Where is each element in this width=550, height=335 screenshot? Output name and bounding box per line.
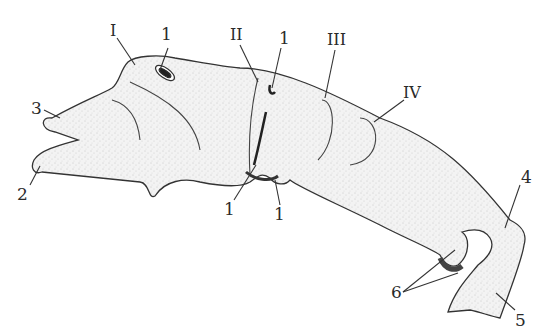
label-1a: 1 (161, 24, 172, 44)
label-III: III (327, 30, 346, 49)
leader-IV (374, 100, 404, 122)
label-2: 2 (17, 184, 28, 204)
label-IV: IV (403, 83, 421, 102)
leader-I (117, 38, 135, 65)
anatomical-diagram: I II III IV 1 1 1 1 2 3 4 5 6 (0, 0, 550, 335)
label-1d: 1 (274, 204, 285, 224)
leader-III (325, 50, 335, 98)
leader-3 (44, 110, 60, 118)
embryo-body-outline (32, 56, 525, 318)
label-6: 6 (391, 282, 402, 302)
label-5: 5 (515, 310, 526, 330)
label-I: I (110, 21, 116, 40)
label-1c: 1 (224, 199, 235, 219)
label-3: 3 (31, 98, 42, 118)
label-1b: 1 (279, 28, 290, 48)
leader-6a (403, 250, 455, 292)
label-II: II (230, 25, 243, 44)
leader-6b (403, 273, 458, 292)
label-4: 4 (521, 167, 532, 187)
